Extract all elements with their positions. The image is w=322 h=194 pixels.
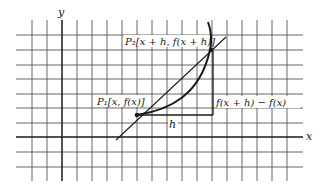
point-p2 bbox=[209, 48, 214, 53]
point-p1 bbox=[135, 113, 140, 118]
y-axis-label: y bbox=[57, 6, 65, 19]
x-axis-label: x bbox=[306, 130, 313, 143]
p1-label: P₁[x, f(x)] bbox=[96, 96, 145, 107]
rise-label: f(x + h) − f(x) bbox=[215, 97, 286, 108]
secant-diagram: y x P₂[x + h, f(x + h)] P₁[x, f(x)] f(x … bbox=[0, 0, 322, 194]
p2-label: P₂[x + h, f(x + h)] bbox=[124, 36, 215, 47]
h-label: h bbox=[169, 118, 176, 131]
